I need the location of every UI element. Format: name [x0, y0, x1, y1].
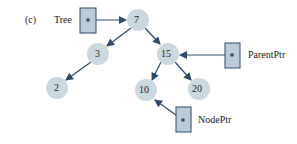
edge-7-15: [145, 28, 160, 44]
edge-15-10: [152, 62, 161, 80]
parentptr-label: ParentPtr: [248, 49, 285, 60]
tree-diagram: [0, 0, 297, 144]
edge-3-2: [66, 62, 91, 80]
edge-15-20: [175, 62, 191, 80]
node-10-value: 10: [139, 84, 149, 95]
tree-label: Tree: [54, 14, 72, 25]
figure-label: (c): [25, 14, 36, 25]
edge-7-3: [107, 28, 131, 46]
node-7-value: 7: [134, 14, 139, 25]
node-20-value: 20: [192, 83, 202, 94]
node-15-value: 15: [161, 48, 171, 59]
node-2-value: 2: [54, 82, 59, 93]
nodeptr-label: NodePtr: [198, 114, 231, 125]
node-3-value: 3: [95, 48, 100, 59]
